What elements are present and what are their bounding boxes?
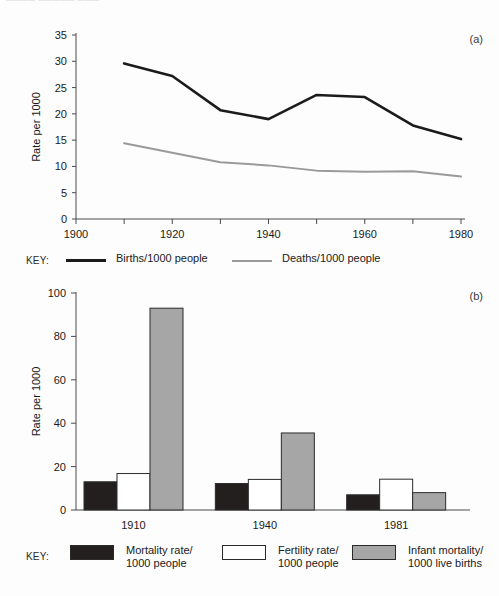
- x-tick-label: 1940: [256, 228, 280, 240]
- y-tick-label: 20: [54, 461, 66, 473]
- y-tick-label: 25: [55, 82, 67, 94]
- legend-a-swatch-births: [66, 259, 106, 262]
- legend-b-label-fertility-line1: Fertility rate/: [278, 544, 339, 556]
- line-series-deaths: [124, 143, 461, 176]
- legend-b-swatch-fertility: [222, 545, 266, 560]
- panel-b-bar-chart: (b) 020406080100Rate per 100019101940198…: [0, 285, 499, 535]
- legend-b-key-label: KEY:: [26, 551, 49, 562]
- line-series-births: [124, 63, 461, 139]
- bar-infant-1910: [150, 308, 183, 510]
- legend-b-swatch-mortality: [70, 545, 114, 560]
- panel-a-label: (a): [470, 33, 483, 45]
- legend-b-label-fertility-line2: 1000 people: [278, 557, 339, 569]
- figure-page: ―――― ――――― ――― (a) 051015202530351900192…: [0, 0, 499, 596]
- x-category-label: 1981: [384, 519, 408, 531]
- bar-fertility-1910: [117, 474, 150, 510]
- line-chart-svg: 0510152025303519001920194019601980Rate p…: [0, 0, 499, 240]
- legend-a-label-deaths: Deaths/1000 people: [282, 252, 380, 265]
- legend-b-label-mortality: Mortality rate/ 1000 people: [126, 544, 193, 570]
- bar-mortality-1981: [347, 495, 380, 510]
- y-tick-label: 20: [55, 108, 67, 120]
- bar-fertility-1981: [380, 479, 413, 510]
- legend-b-label-infant: Infant mortality/ 1000 live births: [408, 544, 483, 570]
- x-tick-label: 1980: [449, 228, 473, 240]
- bar-mortality-1940: [215, 484, 248, 510]
- legend-a-key-label: KEY:: [26, 255, 49, 266]
- x-tick-label: 1900: [64, 228, 88, 240]
- legend-b-label-infant-line1: Infant mortality/: [408, 544, 483, 556]
- x-category-label: 1940: [253, 519, 277, 531]
- y-tick-label: 60: [54, 374, 66, 386]
- y-tick-label: 100: [48, 287, 66, 299]
- y-tick-label: 40: [54, 417, 66, 429]
- panel-b-label: (b): [470, 290, 483, 302]
- bar-chart-svg: 020406080100Rate per 1000191019401981: [0, 285, 499, 535]
- y-tick-label: 0: [60, 504, 66, 516]
- y-tick-label: 30: [55, 55, 67, 67]
- x-tick-label: 1920: [160, 228, 184, 240]
- legend-b-label-fertility: Fertility rate/ 1000 people: [278, 544, 339, 570]
- legend-b-label-mortality-line2: 1000 people: [126, 557, 187, 569]
- legend-b-swatch-infant: [352, 545, 396, 560]
- panel-a-line-chart: (a) 0510152025303519001920194019601980Ra…: [0, 0, 499, 240]
- x-category-label: 1910: [121, 519, 145, 531]
- bar-infant-1940: [281, 433, 314, 510]
- legend-a-label-births: Births/1000 people: [116, 252, 208, 265]
- y-axis-title: Rate per 1000: [30, 367, 42, 437]
- bar-infant-1981: [413, 493, 446, 510]
- bar-mortality-1910: [84, 482, 117, 510]
- y-tick-label: 10: [55, 160, 67, 172]
- y-tick-label: 80: [54, 330, 66, 342]
- x-tick-label: 1960: [353, 228, 377, 240]
- bar-fertility-1940: [248, 479, 281, 510]
- y-tick-label: 5: [61, 187, 67, 199]
- legend-b-label-mortality-line1: Mortality rate/: [126, 544, 193, 556]
- legend-b-label-infant-line2: 1000 live births: [408, 557, 482, 569]
- y-tick-label: 35: [55, 29, 67, 41]
- y-tick-label: 15: [55, 134, 67, 146]
- y-axis-title: Rate per 1000: [30, 92, 42, 162]
- y-tick-label: 0: [61, 213, 67, 225]
- legend-a-swatch-deaths: [232, 260, 272, 262]
